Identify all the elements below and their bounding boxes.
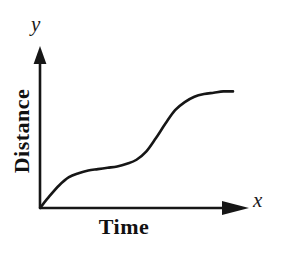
y-axis-title: Distance <box>11 89 33 174</box>
x-axis-title: Time <box>0 216 248 238</box>
x-axis-variable-label: x <box>253 190 262 211</box>
y-axis-variable-label: y <box>31 14 40 35</box>
y-axis-arrow-icon <box>34 46 47 64</box>
distance-time-figure: y x Time Distance <box>0 0 284 255</box>
distance-time-curve <box>40 91 233 208</box>
x-axis-arrow-icon <box>222 201 249 215</box>
